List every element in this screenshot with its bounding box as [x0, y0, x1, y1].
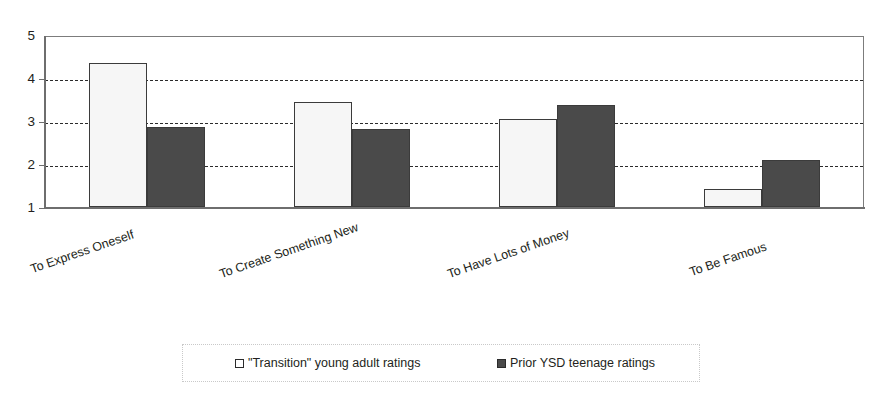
bar — [89, 63, 147, 207]
legend-item-label: "Transition" young adult ratings — [248, 356, 420, 370]
legend: "Transition" young adult ratings Prior Y… — [182, 344, 700, 382]
category-label: To Have Lots of Money — [446, 227, 571, 280]
x-axis-spine — [44, 207, 865, 209]
bar — [147, 127, 205, 207]
category-label: To Be Famous — [688, 240, 768, 278]
legend-item-transition-young-adult: "Transition" young adult ratings — [235, 356, 420, 370]
bar — [294, 102, 352, 207]
legend-swatch-icon — [497, 359, 506, 368]
y-axis-tick-mark — [39, 208, 46, 209]
y-axis-tick-label: 1 — [13, 201, 35, 215]
y-axis-tick-label: 5 — [13, 29, 35, 43]
legend-item-prior-ysd-teenage: Prior YSD teenage ratings — [497, 356, 655, 370]
y-axis-tick-mark — [39, 165, 46, 166]
y-axis-tick-label: 4 — [13, 72, 35, 86]
plot-area — [44, 36, 864, 208]
bar — [557, 105, 615, 207]
y-axis-tick-label: 2 — [13, 158, 35, 172]
category-label: To Create Something New — [218, 221, 360, 280]
gridline — [45, 123, 863, 124]
category-label: To Express Oneself — [29, 228, 136, 275]
y-axis-tick-mark — [39, 122, 46, 123]
bar-chart-figure: 12345 To Express OneselfTo Create Someth… — [0, 0, 889, 407]
y-axis-tick-label: 3 — [13, 115, 35, 129]
y-axis-tick-mark — [39, 79, 46, 80]
legend-item-label: Prior YSD teenage ratings — [510, 356, 655, 370]
bar — [352, 129, 410, 207]
gridline — [45, 80, 863, 81]
legend-swatch-icon — [235, 359, 244, 368]
bar — [704, 189, 762, 207]
bar — [762, 160, 820, 207]
bar — [499, 119, 557, 207]
